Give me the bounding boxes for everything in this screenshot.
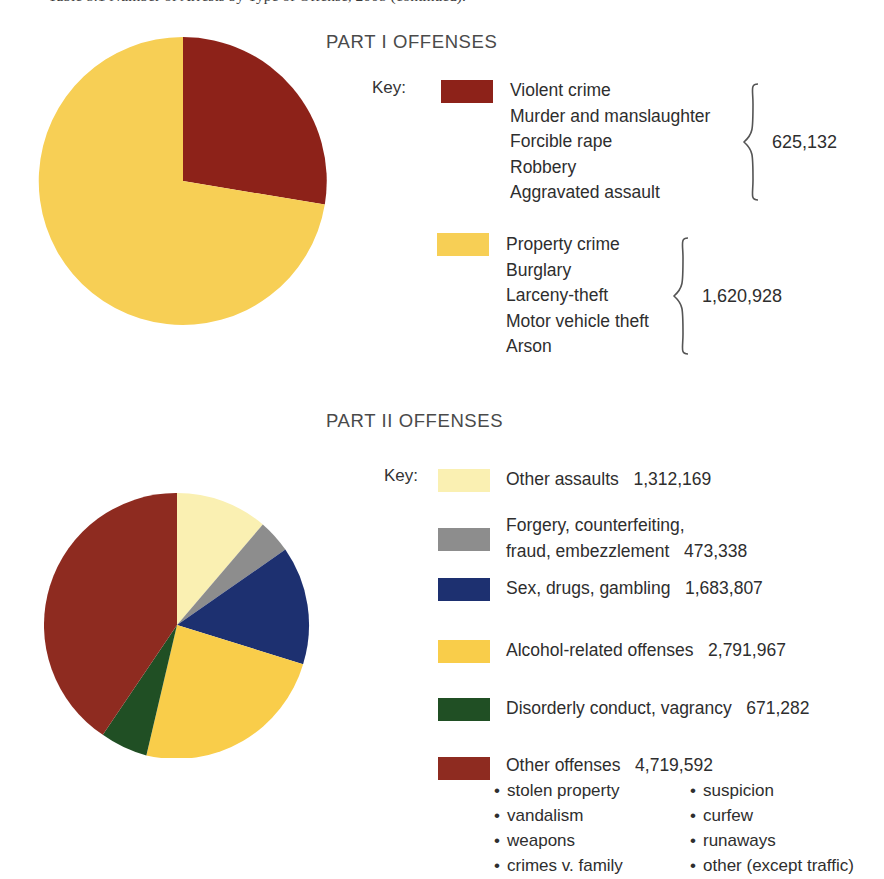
property-crime-total: 1,620,928: [702, 286, 782, 307]
bullet-column-right: suspicion curfew runaways other (except …: [690, 778, 884, 878]
legend-label-line2: fraud, embezzlement: [506, 541, 669, 561]
bullet-item: vandalism: [494, 803, 690, 828]
part1-key-label: Key:: [372, 78, 406, 98]
violent-crime-swatch: [441, 80, 493, 103]
part2-heading: PART II OFFENSES: [326, 410, 503, 432]
part2-pie-chart: [44, 492, 310, 758]
bullet-item: weapons: [494, 828, 690, 853]
legend-label-value: Other assaults 1,312,169: [506, 467, 711, 493]
legend-value: 1,683,807: [685, 578, 763, 598]
other-offenses-bullet-grid: stolen property vandalism weapons crimes…: [494, 778, 884, 878]
legend-item: Forcible rape: [510, 129, 710, 155]
legend-label-value: Alcohol-related offenses 2,791,967: [506, 638, 786, 664]
legend-item: Aggravated assault: [510, 180, 710, 206]
alcohol-offenses-swatch: [438, 640, 490, 663]
legend-item: Larceny-theft: [506, 283, 649, 309]
legend-label: Forgery, counterfeiting,: [506, 513, 747, 539]
other-offenses-swatch: [438, 757, 490, 780]
bullet-item: suspicion: [690, 778, 884, 803]
disorderly-conduct-swatch: [438, 698, 490, 721]
legend-item: Violent crime: [510, 78, 710, 104]
legend-value: 473,338: [684, 541, 747, 561]
part1-pie-chart: [38, 36, 328, 326]
legend-value: 671,282: [746, 698, 809, 718]
legend-label-value: Disorderly conduct, vagrancy 671,282: [506, 696, 810, 722]
legend-label: Other offenses: [506, 755, 620, 775]
forgery-swatch: [438, 528, 490, 551]
other-assaults-legend: Other assaults 1,312,169: [506, 467, 711, 493]
legend-item: Property crime: [506, 232, 649, 258]
bullet-item: other (except traffic): [690, 853, 884, 878]
bullet-item: curfew: [690, 803, 884, 828]
table-caption-cutoff: Table 8.1 Number of Arrests by Type of O…: [0, 0, 884, 12]
violent-crime-legend-list: Violent crime Murder and manslaughter Fo…: [510, 78, 710, 206]
disorderly-conduct-legend: Disorderly conduct, vagrancy 671,282: [506, 696, 810, 722]
bullet-column-left: stolen property vandalism weapons crimes…: [494, 778, 690, 878]
legend-label: Disorderly conduct, vagrancy: [506, 698, 732, 718]
bullet-item: stolen property: [494, 778, 690, 803]
alcohol-offenses-legend: Alcohol-related offenses 2,791,967: [506, 638, 786, 664]
pie1-slice-violent-crime: [183, 37, 327, 205]
legend-label-value: Other offenses 4,719,592: [506, 753, 713, 779]
property-crime-brace: [672, 236, 694, 356]
legend-label: Other assaults: [506, 469, 619, 489]
legend-item: Murder and manslaughter: [510, 104, 710, 130]
property-crime-legend-list: Property crime Burglary Larceny-theft Mo…: [506, 232, 649, 360]
sex-drugs-gambling-swatch: [438, 578, 490, 601]
violent-crime-total: 625,132: [772, 132, 837, 153]
forgery-legend: Forgery, counterfeiting, fraud, embezzle…: [506, 513, 747, 564]
part2-key-label: Key:: [384, 466, 418, 486]
legend-value: 1,312,169: [633, 469, 711, 489]
sex-drugs-gambling-legend: Sex, drugs, gambling 1,683,807: [506, 576, 763, 602]
legend-label-value: fraud, embezzlement 473,338: [506, 539, 747, 565]
legend-value: 2,791,967: [708, 640, 786, 660]
part1-pie-svg: [38, 36, 328, 326]
legend-value: 4,719,592: [635, 755, 713, 775]
part1-heading: PART I OFFENSES: [326, 31, 497, 53]
legend-item: Motor vehicle theft: [506, 309, 649, 335]
part2-pie-svg: [44, 492, 310, 758]
legend-item: Burglary: [506, 258, 649, 284]
other-assaults-swatch: [438, 469, 490, 492]
legend-item: Arson: [506, 334, 649, 360]
bullet-item: crimes v. family: [494, 853, 690, 878]
bullet-item: runaways: [690, 828, 884, 853]
violent-crime-brace: [742, 82, 764, 202]
legend-label: Sex, drugs, gambling: [506, 578, 670, 598]
property-crime-swatch: [437, 233, 489, 256]
other-offenses-legend: Other offenses 4,719,592: [506, 753, 713, 779]
legend-label-value: Sex, drugs, gambling 1,683,807: [506, 576, 763, 602]
legend-item: Robbery: [510, 155, 710, 181]
table-caption-text: Table 8.1 Number of Arrests by Type of O…: [48, 0, 466, 5]
legend-label: Alcohol-related offenses: [506, 640, 693, 660]
